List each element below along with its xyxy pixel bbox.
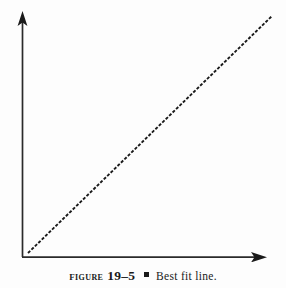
figure-container: FIGURE 19–5 Best fit line. — [0, 0, 286, 288]
best-fit-line — [28, 16, 272, 253]
figure-number: 19–5 — [107, 268, 135, 284]
figure-caption: FIGURE 19–5 Best fit line. — [0, 263, 286, 288]
figure-label-word: FIGURE — [69, 268, 103, 284]
square-bullet-icon — [144, 272, 149, 277]
plot-svg — [0, 0, 286, 262]
plot-area — [0, 0, 286, 262]
figure-caption-text: Best fit line. — [156, 270, 217, 282]
